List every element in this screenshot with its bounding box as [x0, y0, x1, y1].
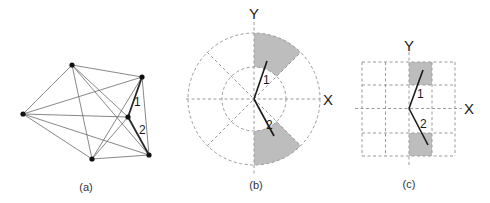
edge-label-1: 1: [134, 95, 141, 109]
segment-label-1: 1: [263, 73, 270, 87]
panel-a-graph: 1 2 (a): [20, 62, 151, 193]
caption-b: (b): [249, 179, 262, 191]
y-axis-label: Y: [249, 5, 259, 22]
segment-label-2: 2: [420, 117, 427, 131]
x-axis-label: X: [464, 100, 474, 117]
figure: 1 2 (a) 1 2 Y X (b): [0, 0, 490, 203]
segment-label-2: 2: [266, 118, 273, 132]
caption-c: (c): [403, 178, 416, 190]
caption-a: (a): [79, 181, 92, 193]
node: [146, 152, 151, 157]
shaded-sector-bottom: [254, 122, 301, 165]
shaded-cell-top: [409, 62, 432, 85]
panel-c-grid: 1 2 Y X (c): [355, 37, 474, 190]
node: [139, 74, 144, 79]
shaded-sector-top: [254, 33, 301, 76]
node: [20, 111, 25, 116]
segment-label-1: 1: [417, 87, 424, 101]
node: [125, 114, 130, 119]
node: [89, 156, 94, 161]
y-axis-label: Y: [404, 37, 414, 54]
node: [69, 62, 74, 67]
panel-b-polar: 1 2 Y X (b): [186, 5, 333, 191]
edge-label-2: 2: [139, 123, 146, 137]
x-axis-label: X: [323, 91, 333, 108]
